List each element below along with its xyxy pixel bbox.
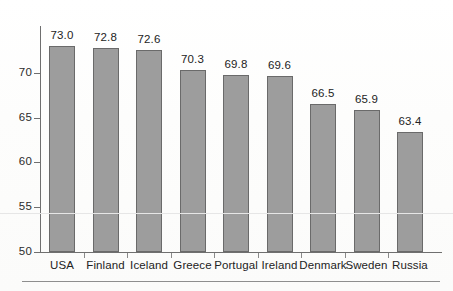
bar-sweden [354, 110, 380, 252]
bar-denmark [310, 104, 336, 252]
bar-value-label: 63.4 [387, 115, 433, 127]
x-tick [345, 253, 346, 258]
bar-value-label: 72.8 [83, 31, 129, 43]
bar-value-label: 70.3 [170, 53, 216, 65]
x-tick [214, 253, 215, 258]
bar-ireland [267, 76, 293, 252]
bar-value-label: 69.8 [213, 58, 259, 70]
bar-value-label: 69.6 [257, 59, 303, 71]
bar-value-label: 65.9 [344, 93, 390, 105]
x-tick [171, 253, 172, 258]
bar-value-label: 73.0 [39, 29, 85, 41]
chart-page: 5055606570 73.072.872.670.369.869.666.56… [0, 0, 453, 291]
x-tick [301, 253, 302, 258]
y-tick-label: 50 [8, 245, 32, 257]
x-tick [258, 253, 259, 258]
y-tick-label: 65 [8, 111, 32, 123]
bar-finland [93, 48, 119, 252]
bar-greece [180, 70, 206, 252]
x-axis-line [40, 252, 442, 253]
x-tick [127, 253, 128, 258]
x-tick [84, 253, 85, 258]
bar-iceland [136, 50, 162, 252]
bar-russia [397, 132, 423, 252]
y-tick-label: 60 [8, 155, 32, 167]
page-rule-divider [22, 281, 440, 282]
bar-value-label: 72.6 [126, 33, 172, 45]
category-label-russia: Russia [378, 259, 442, 271]
bar-usa [49, 46, 75, 252]
y-tick-50 [34, 252, 41, 253]
x-tick [388, 253, 389, 258]
bar-value-label: 66.5 [300, 87, 346, 99]
y-tick-label: 55 [8, 200, 32, 212]
y-tick-label: 70 [8, 66, 32, 78]
bar-portugal [223, 75, 249, 252]
